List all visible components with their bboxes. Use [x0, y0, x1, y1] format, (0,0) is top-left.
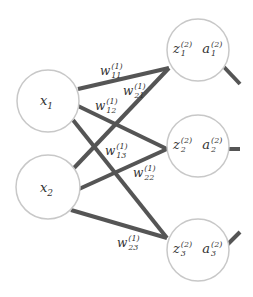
input-label-x1: x1 [40, 94, 53, 111]
hidden-label-1: z(2)1 a(2)1 [173, 40, 222, 58]
weight-label-w13: w(1)13 [105, 142, 128, 160]
weight-label-w22: w(1)22 [133, 164, 156, 182]
input-label-x2: x2 [40, 181, 53, 198]
weight-label-w21: w(1)21 [123, 82, 146, 100]
hidden-label-2: z(2)2 a(2)2 [173, 136, 222, 154]
weight-label-w23: w(1)23 [117, 234, 140, 252]
hidden-label-3: z(2)3 a(2)3 [173, 240, 222, 258]
edge-out-1 [224, 67, 240, 84]
weight-label-w12: w(1)12 [95, 97, 118, 115]
weight-label-w11: w(1)11 [100, 62, 123, 80]
